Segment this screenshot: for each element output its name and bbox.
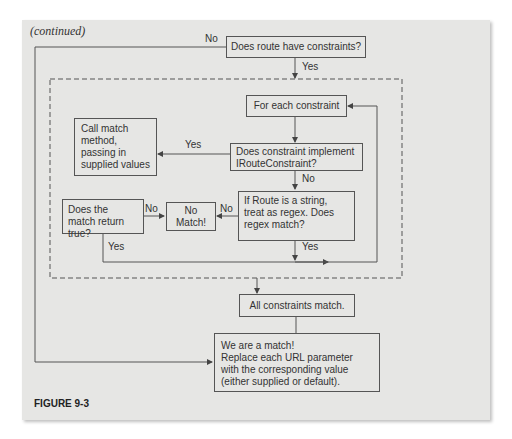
- edge-label-yes-match-true: Yes: [108, 241, 124, 252]
- node-all-constraints-match: All constraints match.: [239, 294, 355, 317]
- node-match-returns-true: Does the match return true?: [62, 199, 144, 234]
- node-has-constraints: Does route have constraints?: [226, 36, 366, 58]
- edge-label-no-top: No: [205, 33, 218, 44]
- edge-label-yes-implements: Yes: [185, 139, 201, 150]
- node-implements-irouteconstraint: Does constraint implement IRouteConstrai…: [230, 143, 363, 171]
- edge-label-yes-top: Yes: [302, 61, 318, 72]
- edge-label-no-match-true: No: [145, 203, 158, 214]
- node-regex-match: If Route is a string, treat as regex. Do…: [238, 191, 355, 241]
- edge-label-no-implements: No: [302, 173, 315, 184]
- we-are-match-heading: We are a match!: [221, 340, 373, 352]
- edge-label-yes-regex: Yes: [302, 241, 318, 252]
- node-for-each-constraint: For each constraint: [246, 95, 347, 117]
- node-no-match: No Match!: [166, 202, 216, 231]
- node-call-match: Call match method, passing in supplied v…: [74, 118, 157, 176]
- node-we-are-a-match: We are a match! Replace each URL paramet…: [214, 333, 380, 392]
- we-are-match-body: Replace each URL parameter with the corr…: [221, 352, 373, 388]
- figure-label: FIGURE 9-3: [34, 398, 89, 409]
- edge-label-no-regex: No: [220, 203, 233, 214]
